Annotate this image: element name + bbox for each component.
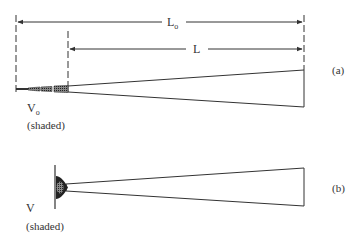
panel-a-tag: (a) xyxy=(332,64,345,77)
l-dimension-label: L xyxy=(193,42,200,56)
lo-dimension-label: Lo xyxy=(167,15,178,31)
panel-b-tag: (b) xyxy=(332,182,345,195)
v-volume-label: V xyxy=(26,201,35,215)
wedge-a xyxy=(68,70,304,107)
shaded-volume-vo xyxy=(16,86,68,93)
wedge-diagram: Lo L Vo (shaded) (a) V (shaded) xyxy=(0,0,356,239)
wedge-b xyxy=(66,168,304,206)
v-shaded-note: (shaded) xyxy=(26,220,64,233)
panel-b: V (shaded) (b) xyxy=(26,165,345,233)
vo-shaded-note: (shaded) xyxy=(27,119,65,132)
vo-volume-label: Vo xyxy=(27,101,40,117)
panel-a: Lo L Vo (shaded) (a) xyxy=(16,15,345,132)
shaded-volume-v xyxy=(56,176,68,199)
